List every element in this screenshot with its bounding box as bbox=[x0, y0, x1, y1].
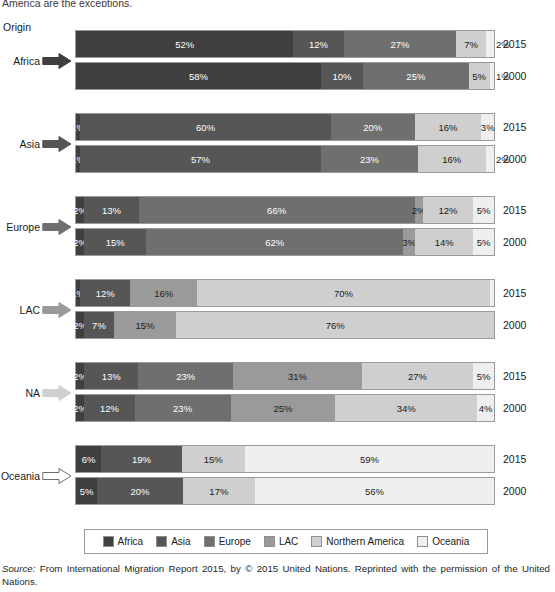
bar-segment-africa: 6% bbox=[76, 446, 101, 472]
segment-value-label: 5% bbox=[477, 237, 491, 248]
legend-swatch bbox=[417, 536, 428, 547]
segment-value-label: 31% bbox=[288, 371, 307, 382]
bar-segment-northern-america: 12% bbox=[423, 197, 473, 223]
legend-swatch bbox=[264, 536, 275, 547]
segment-value-label: 5% bbox=[472, 71, 486, 82]
origin-name: NA bbox=[25, 387, 40, 399]
bar-segment-asia: 7% bbox=[84, 312, 113, 338]
origin-group-oceania: Oceania6%19%15%59%20155%20%17%56%2000 bbox=[0, 445, 555, 506]
bar-segment-oceania: 5% bbox=[473, 363, 494, 389]
year-label: 2015 bbox=[503, 445, 526, 473]
bar-row: 2%15%62%3%14%5% bbox=[75, 228, 495, 256]
source-note: Source: From International Migration Rep… bbox=[2, 562, 550, 588]
segment-value-label: 70% bbox=[334, 288, 353, 299]
bar-segment-europe: 20% bbox=[331, 114, 415, 140]
segment-value-label: 15% bbox=[106, 237, 125, 248]
bar-segment-oceania: 59% bbox=[245, 446, 494, 472]
legend-item-europe: Europe bbox=[204, 536, 251, 547]
bar-segment-lac: 15% bbox=[114, 312, 177, 338]
segment-value-label: 3% bbox=[481, 122, 495, 133]
arrow-right-icon bbox=[42, 52, 72, 69]
bar-row: 6%19%15%59% bbox=[75, 445, 495, 473]
bar-segment-africa: 2% bbox=[76, 229, 84, 255]
bar-segment-oceania: 5% bbox=[473, 229, 494, 255]
bar-segment-africa: 5% bbox=[76, 478, 97, 504]
bar-segment-asia: 20% bbox=[97, 478, 182, 504]
arrow-right-icon bbox=[42, 301, 72, 318]
segment-value-label: 12% bbox=[96, 288, 115, 299]
year-label: 2000 bbox=[503, 62, 526, 90]
segment-value-label: 16% bbox=[438, 122, 457, 133]
legend-swatch bbox=[311, 536, 322, 547]
year-label: 2015 bbox=[503, 362, 526, 390]
segment-value-label: 58% bbox=[189, 71, 208, 82]
segment-value-label: 4% bbox=[479, 403, 493, 414]
segment-value-label: 7% bbox=[464, 39, 478, 50]
bar-segment-asia: 15% bbox=[84, 229, 146, 255]
segment-value-label: 3% bbox=[402, 237, 416, 248]
bar-segment-africa: 58% bbox=[76, 63, 321, 89]
segment-value-label: 25% bbox=[406, 71, 425, 82]
segment-value-label: 10% bbox=[332, 71, 351, 82]
segment-value-label: 16% bbox=[442, 154, 461, 165]
bars-column: 6%19%15%59%20155%20%17%56%2000 bbox=[75, 445, 555, 506]
segment-value-label: 60% bbox=[196, 122, 215, 133]
bar-segment-oceania: 3% bbox=[481, 114, 494, 140]
bar-row: 1%12%16%70% bbox=[75, 279, 495, 307]
bar-segment-africa: 2% bbox=[76, 363, 84, 389]
bar-segment-lac: 16% bbox=[130, 280, 197, 306]
bar-segment-oceania: 5% bbox=[473, 197, 494, 223]
legend-label: Europe bbox=[219, 536, 251, 547]
legend-item-africa: Africa bbox=[103, 536, 144, 547]
source-text: From International Migration Report 2015… bbox=[2, 563, 550, 587]
bars-column: 52%12%27%7%2%201558%10%25%5%1%2000 bbox=[75, 30, 555, 91]
segment-value-label: 5% bbox=[477, 371, 491, 382]
segment-value-label: 52% bbox=[175, 39, 194, 50]
origin-name: LAC bbox=[20, 304, 40, 316]
bar-segment-oceania: 1% bbox=[490, 63, 494, 89]
origin-group-asia: Asia1%60%20%16%3%20151%57%23%16%2%2000 bbox=[0, 113, 555, 174]
origin-label-column: Europe bbox=[0, 196, 74, 257]
year-label: 2015 bbox=[503, 113, 526, 141]
legend-swatch bbox=[103, 536, 114, 547]
bar-segment-oceania: 4% bbox=[477, 395, 494, 421]
segment-value-label: 23% bbox=[360, 154, 379, 165]
legend-swatch bbox=[156, 536, 167, 547]
segment-value-label: 25% bbox=[273, 403, 292, 414]
stacked-bar-chart: Africa52%12%27%7%2%201558%10%25%5%1%2000… bbox=[0, 30, 555, 520]
origin-label-column: Africa bbox=[0, 30, 74, 91]
year-label: 2000 bbox=[503, 145, 526, 173]
bar-segment-northern-america: 7% bbox=[456, 31, 485, 57]
arrow-right-icon bbox=[42, 467, 72, 484]
bar-row: 2%13%66%2%12%5% bbox=[75, 196, 495, 224]
segment-value-label: 34% bbox=[397, 403, 416, 414]
segment-value-label: 27% bbox=[390, 39, 409, 50]
cut-off-body-text: America are the exceptions. bbox=[2, 0, 132, 7]
year-label: 2000 bbox=[503, 394, 526, 422]
segment-value-label: 16% bbox=[154, 288, 173, 299]
bar-segment-lac: 2% bbox=[415, 197, 423, 223]
bar-segment-asia: 12% bbox=[293, 31, 343, 57]
segment-value-label: 6% bbox=[82, 454, 96, 465]
segment-value-label: 66% bbox=[267, 205, 286, 216]
bar-segment-asia: 12% bbox=[80, 280, 130, 306]
bar-segment-europe: 66% bbox=[139, 197, 415, 223]
bar-segment-africa: 2% bbox=[76, 312, 84, 338]
segment-value-label: 5% bbox=[477, 205, 491, 216]
bar-segment-northern-america: 5% bbox=[469, 63, 490, 89]
bar-segment-asia: 12% bbox=[84, 395, 134, 421]
bar-segment-northern-america: 70% bbox=[197, 280, 490, 306]
bar-segment-northern-america: 14% bbox=[415, 229, 473, 255]
segment-value-label: 20% bbox=[130, 486, 149, 497]
chart-legend: AfricaAsiaEuropeLACNorthern AmericaOcean… bbox=[84, 529, 488, 554]
bar-row: 1%60%20%16%3% bbox=[75, 113, 495, 141]
segment-value-label: 15% bbox=[204, 454, 223, 465]
bar-row: 2%12%23%25%34%4% bbox=[75, 394, 495, 422]
bars-column: 2%13%66%2%12%5%20152%15%62%3%14%5%2000 bbox=[75, 196, 555, 257]
bar-segment-northern-america: 15% bbox=[182, 446, 245, 472]
legend-item-northern-america: Northern America bbox=[311, 536, 404, 547]
legend-label: Africa bbox=[118, 536, 144, 547]
bar-segment-europe: 23% bbox=[135, 395, 231, 421]
bar-segment-asia: 60% bbox=[80, 114, 331, 140]
year-label: 2015 bbox=[503, 196, 526, 224]
